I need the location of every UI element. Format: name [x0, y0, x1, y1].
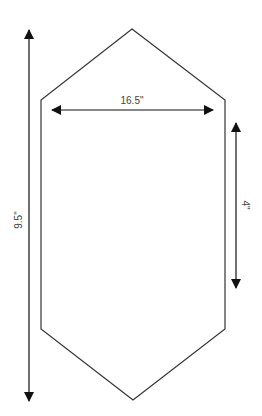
width-dimension-label: 16.5" — [120, 95, 143, 106]
side-dimension-label: 4" — [240, 200, 251, 210]
hexagon-diagram: 9.5" 16.5" 4" — [0, 0, 262, 416]
hexagon-outline — [41, 29, 225, 400]
height-dimension-label: 9.5" — [13, 211, 24, 229]
